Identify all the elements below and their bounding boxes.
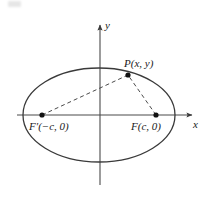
left-focus-point [39,112,44,117]
left-focus-label: F′(−c, 0) [29,121,69,132]
focal-radius-left-segment [42,75,128,115]
curve-point-P [125,72,130,77]
y-axis-label: y [105,20,110,31]
right-focus-point [153,112,158,117]
x-axis-label: x [193,119,198,130]
ellipse-foci-figure: y x P(x, y) F′(−c, 0) F(c, 0) [0,0,209,198]
right-focus-label: F(c, 0) [131,121,161,132]
curve-point-label: P(x, y) [124,58,153,69]
